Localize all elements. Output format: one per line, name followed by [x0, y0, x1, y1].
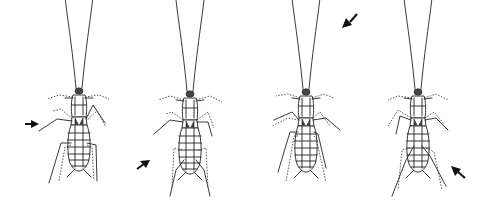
- arrow-icon: [451, 166, 465, 178]
- insect-body: [175, 0, 205, 180]
- insect-body: [64, 0, 94, 177]
- insect-panel-2: [154, 0, 222, 196]
- insect-figure: [0, 0, 490, 205]
- insect-panel-3: [272, 0, 340, 182]
- arrow-icon: [25, 120, 39, 128]
- insect-body: [291, 0, 321, 178]
- insect-panel-4: [388, 0, 448, 196]
- arrow-icon: [342, 14, 357, 28]
- insect-panel-1: [39, 0, 109, 183]
- arrow-icon: [137, 160, 150, 169]
- insect-body: [403, 0, 433, 178]
